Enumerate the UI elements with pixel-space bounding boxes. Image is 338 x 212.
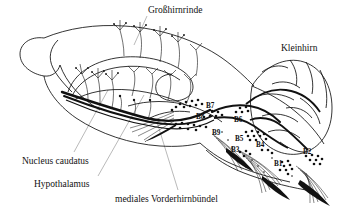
- fiber-terminal-boutons: [75, 22, 185, 101]
- leader-grosshirnrinde: [134, 16, 147, 45]
- septal-arc: [74, 89, 188, 106]
- leader-nucleus-caudatus: [74, 90, 108, 152]
- cerebellum-folium: [262, 66, 288, 72]
- label-B5: B5: [235, 136, 243, 143]
- fiber-arbor: [134, 22, 146, 58]
- label-B2: B2: [303, 149, 311, 156]
- fiber-arbor: [154, 26, 166, 62]
- mfb-trunk-upper: [62, 92, 210, 121]
- label-B9: B9: [212, 130, 220, 137]
- label-B8: B8: [196, 114, 204, 121]
- raphe-nuclei-cell-clusters: [171, 99, 324, 176]
- fiber-arbor: [190, 43, 202, 76]
- label-B7: B7: [206, 103, 214, 110]
- fiber-arbor: [114, 20, 126, 56]
- cluster-B5: [245, 130, 268, 142]
- cerebellum-folium: [272, 82, 300, 88]
- fiber-arbor: [128, 66, 140, 96]
- label-kleinhirn: Kleinhirn: [281, 44, 317, 54]
- cluster-B6: [235, 106, 250, 114]
- label-nucleus-caudatus: Nucleus caudatus: [22, 157, 89, 167]
- fiber-arbor: [92, 68, 104, 104]
- arrow-terminal: [144, 124, 176, 142]
- brain-diagram-figure: Großhirnrinde Kleinhirn Nucleus caudatus…: [0, 0, 338, 212]
- label-hypothalamus: Hypothalamus: [34, 180, 89, 190]
- label-grosshirnrinde: Großhirnrinde: [148, 6, 202, 16]
- descending-projection-fans: [130, 112, 328, 203]
- cerebrum-dorsal-contour: [44, 26, 254, 87]
- cerebellum-folium: [300, 98, 320, 124]
- third-ventricle-arc: [150, 111, 190, 118]
- fiber-arbor: [106, 70, 118, 108]
- cerebellum-folium: [290, 60, 297, 86]
- cerebellum-folium: [320, 70, 327, 108]
- cluster-B4: [261, 149, 274, 155]
- fiber-arbor: [172, 32, 184, 68]
- olfactory-bulb-fissure: [50, 40, 72, 92]
- label-B6: B6: [234, 117, 242, 124]
- hippocampal-arc: [72, 66, 180, 96]
- fiber-stem: [148, 100, 151, 120]
- label-mediales-vorderhirnbuendel: mediales Vorderhirnbündel: [115, 195, 218, 205]
- cerebellum-folium: [258, 94, 294, 100]
- label-B4: B4: [256, 142, 264, 149]
- arrow-terminal: [262, 176, 290, 200]
- label-B3: B3: [231, 147, 239, 154]
- label-B1: B1: [274, 161, 282, 168]
- cerebellum-folium: [306, 62, 313, 94]
- cerebellum-folium: [286, 107, 312, 118]
- leader-mediales-vorderhirnbuendel: [157, 122, 178, 190]
